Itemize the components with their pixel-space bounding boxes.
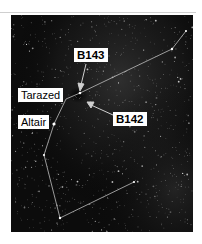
- dark-nebula-b143-b142: [68, 87, 88, 103]
- label-b142: B142: [113, 112, 147, 126]
- star-field-photo: B143 Tarazed B142 Altair: [11, 15, 193, 232]
- label-altair: Altair: [18, 115, 49, 129]
- altair-star: [52, 122, 55, 125]
- label-b143: B143: [74, 48, 108, 62]
- top-divider-line: [0, 12, 196, 13]
- label-tarazed: Tarazed: [18, 88, 63, 102]
